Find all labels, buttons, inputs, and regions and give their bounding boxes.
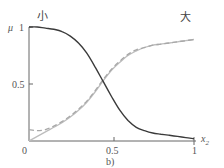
x-tick-label-1: 1 [192,146,197,156]
x-axis-label: x2 [201,134,209,148]
series-layer [29,27,194,141]
small-curve-label: 小 [37,12,48,22]
y-tick-label-05: 0.5 [12,80,25,90]
series-line-1 [29,40,194,131]
figure-caption: b) [106,157,114,167]
x-tick-label-05: 0.5 [106,146,119,156]
y-axis-label: μ [8,23,13,33]
membership-chart [0,0,224,168]
x-axis-label-sub: 2 [205,139,209,147]
series-line-2 [29,27,194,139]
x-tick-label-0: 0 [22,146,27,156]
large-curve-label: 大 [180,13,191,23]
y-tick-label-1: 1 [19,23,24,33]
